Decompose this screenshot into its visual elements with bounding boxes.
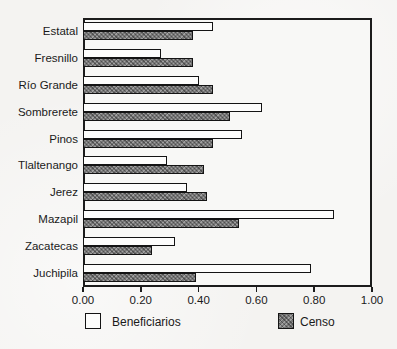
category-label: Pinos (0, 133, 78, 146)
x-axis-tick-label: 0.00 (61, 294, 105, 306)
bar-censo (83, 165, 204, 174)
bar-beneficiarios (83, 156, 167, 165)
bar-censo (83, 192, 207, 201)
bar-beneficiarios (83, 183, 187, 192)
bar-beneficiarios (83, 22, 213, 31)
x-axis-tick-label: 1.00 (350, 294, 394, 306)
category-label: Mazapil (0, 213, 78, 226)
x-axis-tick-label: 0.20 (119, 294, 163, 306)
category-label: Jerez (0, 186, 78, 199)
bar-beneficiarios (83, 76, 199, 85)
bar-beneficiarios (83, 130, 242, 139)
category-label: Río Grande (0, 79, 78, 92)
x-axis-tick (82, 287, 84, 292)
bar-censo (83, 112, 230, 121)
x-axis-tick (198, 287, 200, 292)
category-label: Juchipila (0, 267, 78, 280)
legend-label: Beneficiarios (112, 315, 181, 329)
category-label: Sombrerete (0, 106, 78, 119)
category-label: Estatal (0, 25, 78, 38)
x-axis-tick (256, 287, 258, 292)
bar-censo (83, 58, 193, 67)
legend-swatch-censo (278, 313, 294, 329)
x-axis-tick (371, 287, 373, 292)
x-axis-tick-label: 0.60 (234, 294, 278, 306)
bar-censo (83, 219, 239, 228)
bar-beneficiarios (83, 210, 334, 219)
bar-beneficiarios (83, 49, 161, 58)
bar-chart: EstatalFresnilloRío GrandeSombreretePino… (0, 0, 397, 349)
category-label: Tlaltenango (0, 159, 78, 172)
bar-censo (83, 85, 213, 94)
x-axis-tick-label: 0.80 (292, 294, 336, 306)
legend-swatch-beneficiarios (85, 313, 101, 329)
bar-censo (83, 273, 196, 282)
bar-beneficiarios (83, 264, 311, 273)
x-axis-tick (140, 287, 142, 292)
bar-beneficiarios (83, 237, 175, 246)
legend-label: Censo (300, 315, 335, 329)
bar-beneficiarios (83, 103, 262, 112)
bar-censo (83, 246, 152, 255)
x-axis-tick-label: 0.40 (177, 294, 221, 306)
category-label: Fresnillo (0, 52, 78, 65)
bar-censo (83, 139, 213, 148)
category-label: Zacatecas (0, 240, 78, 253)
bar-censo (83, 31, 193, 40)
x-axis-tick (313, 287, 315, 292)
